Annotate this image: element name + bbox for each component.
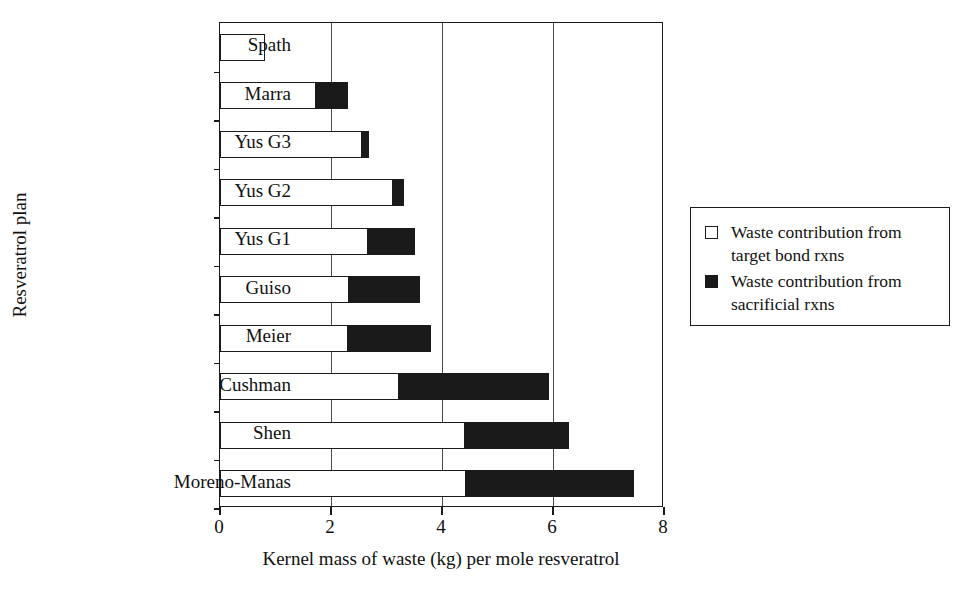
y-axis-category-label: Shen <box>253 423 291 443</box>
bar-segment-sacrificial <box>464 422 569 449</box>
bar-segment-sacrificial <box>392 179 405 206</box>
bar-segment-sacrificial <box>348 276 421 303</box>
y-axis-category-label: Yus G1 <box>235 229 291 249</box>
x-axis-title: Kernel mass of waste (kg) per mole resve… <box>219 548 663 570</box>
y-axis-category-label: Marra <box>245 84 291 104</box>
x-axis-tick <box>330 507 332 515</box>
x-axis-tick <box>663 507 665 515</box>
y-axis-tick <box>214 266 220 268</box>
y-axis-category-label: Meier <box>246 326 291 346</box>
x-axis-tick-label: 4 <box>421 516 461 538</box>
x-axis-tick <box>441 507 443 515</box>
x-axis-tick <box>219 507 221 515</box>
x-axis-tick-label: 8 <box>643 516 683 538</box>
bar-segment-sacrificial <box>347 325 432 352</box>
hollow-square-icon <box>705 226 718 239</box>
y-axis-tick <box>214 363 220 365</box>
x-axis-tick-label: 6 <box>532 516 572 538</box>
x-axis-tick <box>552 507 554 515</box>
y-axis-tick <box>214 314 220 316</box>
y-axis-tick <box>214 460 220 462</box>
x-axis-tick-label: 2 <box>310 516 350 538</box>
y-axis-title: Resveratrol plan <box>9 175 31 335</box>
filled-square-icon <box>705 275 718 288</box>
y-axis-category-label: Yus G3 <box>235 132 291 152</box>
y-axis-category-label: Moreno-Manas <box>174 472 291 492</box>
y-axis-category-label: Guiso <box>246 278 291 298</box>
y-axis-tick <box>214 72 220 74</box>
bar-segment-sacrificial <box>465 470 634 497</box>
legend-label-target-bond: Waste contribution from target bond rxns <box>731 221 936 267</box>
y-axis-tick <box>214 120 220 122</box>
bar-chart: Resveratrol plan SpathMarraYus G3Yus G2Y… <box>0 0 975 598</box>
y-axis-category-label: Spath <box>248 35 291 55</box>
x-axis-tick-label: 0 <box>199 516 239 538</box>
legend-entry-target-bond: Waste contribution from target bond rxns <box>705 221 936 267</box>
y-axis-tick <box>214 169 220 171</box>
legend: Waste contribution from target bond rxns… <box>690 207 950 326</box>
bar-segment-sacrificial <box>398 373 549 400</box>
y-axis-category-label: Yus G2 <box>235 181 291 201</box>
y-axis-category-label: Cushman <box>219 375 291 395</box>
bar-segment-sacrificial <box>315 82 349 109</box>
legend-label-sacrificial: Waste contribution from sacrificial rxns <box>731 270 936 316</box>
bar-segment-sacrificial <box>367 228 416 255</box>
bar-segment-sacrificial <box>361 131 370 158</box>
y-axis-tick <box>214 411 220 413</box>
y-axis-tick <box>214 217 220 219</box>
legend-entry-sacrificial: Waste contribution from sacrificial rxns <box>705 270 936 316</box>
